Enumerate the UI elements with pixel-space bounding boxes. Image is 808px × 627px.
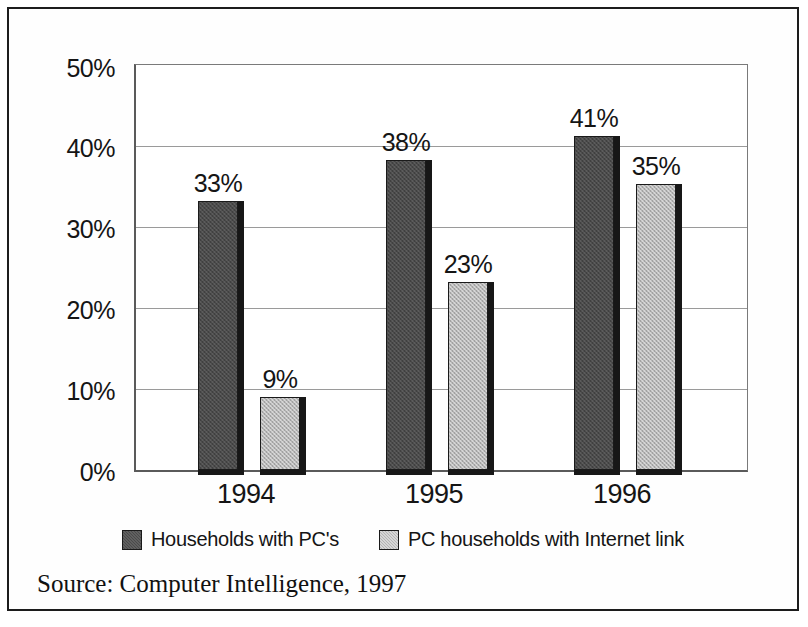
bar-1995-households-with-pc — [386, 160, 426, 470]
legend-swatch-icon — [122, 530, 142, 550]
bar-value-text: 9% — [262, 365, 297, 393]
bar-value-text: 33% — [194, 169, 243, 197]
y-axis-tick-label: 40% — [66, 134, 115, 162]
bar-1994-households-with-pc — [198, 201, 238, 470]
bar-value-label-1995-internet: 23% — [428, 252, 508, 277]
bar-1996-households-with-pc — [574, 136, 614, 470]
legend-item-label: Households with PC's — [151, 528, 339, 551]
x-axis-tick-label: 1994 — [217, 479, 275, 509]
bar-value-label-1994-internet: 9% — [240, 367, 320, 392]
bar-value-label-1996-internet: 35% — [616, 154, 696, 179]
y-axis-tick-label: 0% — [80, 458, 115, 486]
bar-value-label-1995-pc: 38% — [366, 130, 446, 155]
source-note: Source: Computer Intelligence, 1997 — [37, 570, 406, 598]
legend-item-label: PC households with Internet link — [408, 528, 684, 551]
bar-value-label-1994-pc: 33% — [178, 171, 258, 196]
bar-value-label-1996-pc: 41% — [554, 106, 634, 131]
x-axis-tick-1995: 1995 — [374, 481, 494, 508]
x-axis-tick-1994: 1994 — [186, 481, 306, 508]
bar-value-text: 23% — [444, 250, 493, 278]
x-axis-tick-1996: 1996 — [562, 481, 682, 508]
bar-1995-pc-households-internet — [448, 282, 488, 470]
y-axis-tick-label: 30% — [66, 215, 115, 243]
y-axis-tick-20: 20% — [19, 298, 115, 323]
legend-swatch-icon — [379, 530, 399, 550]
bar-value-text: 35% — [632, 152, 681, 180]
y-axis-tick-label: 20% — [66, 296, 115, 324]
y-axis-tick-label: 50% — [66, 54, 115, 82]
y-axis-tick-10: 10% — [19, 379, 115, 404]
bar-1996-pc-households-internet — [636, 184, 676, 470]
legend-item-households-with-pc: Households with PC's — [122, 528, 339, 551]
y-axis-tick-50: 50% — [19, 56, 115, 81]
chart-frame: 50% 40% 30% 20% 10% 0% 33% 9% — [7, 7, 799, 611]
chart-legend: Households with PC's PC households with … — [9, 528, 797, 551]
legend-item-pc-households-internet: PC households with Internet link — [379, 528, 684, 551]
x-axis-tick-label: 1996 — [593, 479, 651, 509]
bar-value-text: 38% — [382, 128, 431, 156]
bar-1994-pc-households-internet — [260, 397, 300, 470]
bar-value-text: 41% — [570, 104, 619, 132]
y-axis-tick-30: 30% — [19, 217, 115, 242]
y-axis-tick-label: 10% — [66, 377, 115, 405]
x-axis-tick-label: 1995 — [405, 479, 463, 509]
plot-area: 33% 9% 38% 23% 41% 35% — [134, 64, 748, 472]
y-axis-tick-40: 40% — [19, 136, 115, 161]
y-axis-tick-0: 0% — [19, 460, 115, 485]
